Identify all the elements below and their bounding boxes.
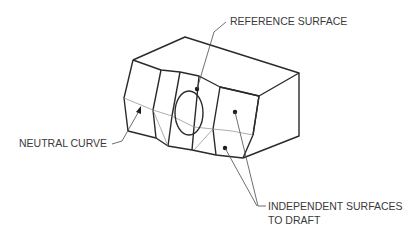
neutral-curve-leader (112, 106, 141, 144)
reference-leader (195, 22, 226, 91)
neutral-curve-line (124, 98, 253, 150)
draft-diagram: REFERENCE SURFACE NEUTRAL CURVE INDEPEND… (0, 0, 419, 232)
reference-surface-label: REFERENCE SURFACE (230, 15, 347, 27)
hole-ellipse (175, 91, 203, 135)
neutral-curve-label: NEUTRAL CURVE (19, 137, 107, 149)
independent-surfaces-label-line1: INDEPENDENT SURFACES (268, 200, 403, 212)
independent-surfaces-label-line2: TO DRAFT (268, 214, 321, 226)
right-side-face (243, 73, 299, 158)
